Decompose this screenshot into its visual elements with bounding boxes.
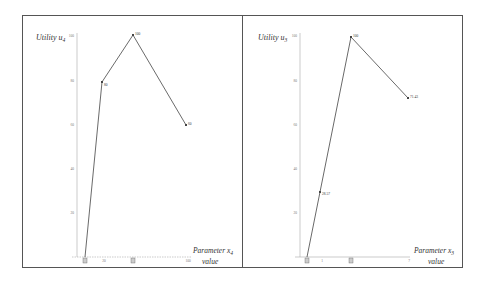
right-point-label: 28.57: [322, 192, 330, 196]
left-chart: Utility u4 100 80 60 40 20 20 100 80 100…: [36, 32, 233, 266]
right-x-axis-label-line2: value: [428, 257, 445, 266]
data-point: [350, 36, 352, 38]
left-x-tick-marker: [131, 258, 135, 263]
right-x-tick: 1: [321, 259, 323, 263]
left-y-tick: 20: [71, 211, 75, 215]
right-y-axis-label: Utility u3: [258, 33, 287, 43]
left-x-tick-marker: [83, 258, 87, 263]
left-y-tick: 40: [71, 167, 75, 171]
right-y-tick: 60: [294, 123, 298, 127]
left-x-axis-label-line2: value: [202, 257, 219, 266]
right-x-axis-label: Parameter x3: [413, 246, 454, 256]
left-y-tick: 80: [71, 79, 75, 83]
left-point-label: 100: [135, 32, 141, 36]
right-y-tick: 40: [294, 167, 298, 171]
data-point: [407, 97, 409, 99]
right-point-label: 71.43: [410, 95, 418, 99]
left-y-axis-label: Utility u4: [36, 33, 65, 43]
data-point: [185, 124, 187, 126]
right-utility-line: [307, 37, 408, 257]
charts-canvas: Utility u4 100 80 60 40 20 20 100 80 100…: [0, 0, 484, 282]
right-point-label: 100: [353, 34, 359, 38]
right-chart: Utility u3 100 80 60 40 20 1 7 28.57 100…: [258, 33, 454, 266]
right-y-tick: 80: [294, 79, 298, 83]
left-x-tick: 20: [102, 259, 106, 263]
left-point-label: 60: [188, 122, 192, 126]
right-y-tick: 100: [292, 34, 298, 38]
left-y-tick: 60: [71, 123, 75, 127]
data-point: [319, 191, 321, 193]
right-x-tick-marker: [349, 258, 353, 263]
left-x-axis-label: Parameter x4: [192, 246, 233, 256]
data-point: [101, 81, 103, 83]
data-point: [132, 34, 134, 36]
left-x-tick: 100: [185, 259, 191, 263]
left-point-label: 80: [104, 83, 108, 87]
right-x-tick-marker: [305, 258, 309, 263]
right-y-tick: 20: [294, 211, 298, 215]
left-y-tick: 100: [69, 34, 75, 38]
left-utility-line: [85, 35, 186, 257]
right-x-tick: 7: [408, 259, 410, 263]
